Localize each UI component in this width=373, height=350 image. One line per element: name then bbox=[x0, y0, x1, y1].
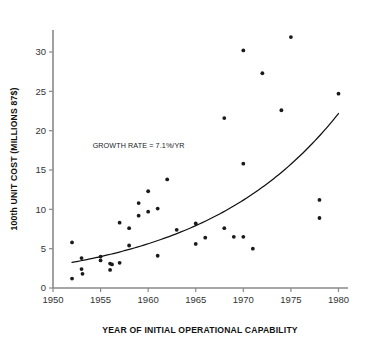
data-point bbox=[194, 222, 198, 226]
data-point bbox=[156, 254, 160, 258]
axes-group bbox=[53, 30, 348, 288]
x-axis-title: YEAR OF INITIAL OPERATIONAL CAPABILITY bbox=[102, 325, 298, 335]
y-tick-label: 0 bbox=[41, 282, 46, 293]
trend-curve bbox=[72, 114, 338, 263]
data-point bbox=[99, 255, 103, 259]
y-tick-label: 15 bbox=[35, 164, 46, 175]
y-tick-label: 20 bbox=[35, 125, 46, 136]
data-point bbox=[137, 214, 141, 218]
x-tick-label: 1980 bbox=[328, 294, 349, 305]
x-tick-label: 1965 bbox=[185, 294, 206, 305]
x-axis-ticks: 1950195519601965197019751980 bbox=[42, 288, 349, 305]
y-axis-title: 100th UNIT COST (MILLIONS 87$) bbox=[9, 87, 19, 230]
growth-rate-annotation: GROWTH RATE = 7.1%/YR bbox=[93, 141, 185, 150]
data-point bbox=[156, 207, 160, 211]
data-point bbox=[260, 71, 264, 75]
x-tick-label: 1960 bbox=[138, 294, 159, 305]
x-tick-label: 1975 bbox=[280, 294, 301, 305]
x-tick-label: 1970 bbox=[233, 294, 254, 305]
y-tick-label: 5 bbox=[41, 243, 46, 254]
data-point bbox=[70, 240, 74, 244]
data-point bbox=[222, 116, 226, 120]
data-point bbox=[108, 268, 112, 272]
data-point bbox=[318, 198, 322, 202]
data-point bbox=[241, 162, 245, 166]
data-point bbox=[165, 178, 169, 182]
data-point bbox=[251, 247, 255, 251]
plot-canvas: 051015202530 195019551960196519701975198… bbox=[0, 0, 373, 350]
data-point bbox=[81, 272, 85, 276]
data-point bbox=[70, 277, 74, 281]
y-tick-label: 10 bbox=[35, 204, 46, 215]
data-point bbox=[127, 226, 131, 230]
data-point bbox=[127, 244, 131, 248]
data-point bbox=[110, 263, 114, 267]
data-point bbox=[337, 92, 341, 96]
x-tick-label: 1955 bbox=[90, 294, 111, 305]
data-point bbox=[137, 201, 141, 205]
data-point bbox=[194, 242, 198, 246]
data-point bbox=[289, 35, 293, 39]
scatter-chart-figure: 051015202530 195019551960196519701975198… bbox=[0, 0, 373, 350]
data-point bbox=[99, 259, 103, 263]
data-point bbox=[118, 221, 122, 225]
data-point bbox=[318, 216, 322, 220]
data-point bbox=[175, 228, 179, 232]
data-point bbox=[232, 235, 236, 239]
data-point bbox=[80, 256, 84, 260]
data-point bbox=[222, 226, 226, 230]
data-point bbox=[80, 267, 84, 271]
y-tick-label: 25 bbox=[35, 86, 46, 97]
data-points-group bbox=[70, 35, 340, 280]
y-tick-label: 30 bbox=[35, 46, 46, 57]
data-point bbox=[118, 261, 122, 265]
data-point bbox=[146, 210, 150, 214]
data-point bbox=[241, 235, 245, 239]
y-axis-ticks: 051015202530 bbox=[35, 46, 53, 293]
x-tick-label: 1950 bbox=[42, 294, 63, 305]
data-point bbox=[203, 236, 207, 240]
data-point bbox=[279, 108, 283, 112]
data-point bbox=[146, 189, 150, 193]
data-point bbox=[241, 49, 245, 53]
